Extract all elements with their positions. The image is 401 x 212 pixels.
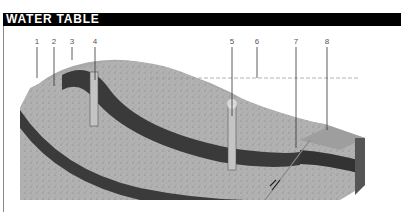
callout-8: 8 <box>325 37 329 46</box>
callout-5: 5 <box>230 37 234 46</box>
callout-4: 4 <box>93 37 97 46</box>
callout-7: 7 <box>294 37 298 46</box>
well-4 <box>90 72 98 126</box>
callout-1: 1 <box>35 37 39 46</box>
callout-6: 6 <box>255 37 259 46</box>
water-table-cross-section <box>0 0 401 212</box>
callout-2: 2 <box>52 37 56 46</box>
callout-3: 3 <box>70 37 74 46</box>
